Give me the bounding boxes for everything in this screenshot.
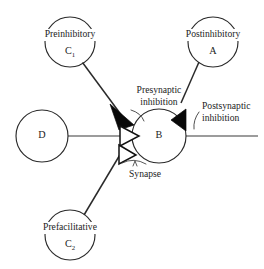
c1-subscript-char: 1 xyxy=(72,51,75,58)
node-label-c1-symbol: C1 xyxy=(65,45,75,57)
node-label-c1-title: Preinhibitory xyxy=(45,28,96,39)
c2-subscript-char: 2 xyxy=(72,244,76,251)
annotation-postsynaptic-inhibition-line2: inhibition xyxy=(202,112,240,123)
leader-synapse-arrow xyxy=(133,161,137,166)
axon-c1-to-terminal xyxy=(83,63,123,117)
annotation-presynaptic-inhibition-line2: inhibition xyxy=(140,96,178,107)
annotation-presynaptic-inhibition-line1: Presynaptic xyxy=(137,84,182,95)
diagram-canvas: Preinhibitory C1 Postinhibitory A D B Pr… xyxy=(0,0,264,269)
annotation-synapse-line1: Synapse xyxy=(129,168,161,179)
neuron-synapse-diagram: Preinhibitory C1 Postinhibitory A D B Pr… xyxy=(0,0,264,269)
axon-c2-to-terminal xyxy=(84,153,121,215)
node-circle-c1[interactable] xyxy=(45,17,95,67)
annotation-postsynaptic-inhibition-line1: Postsynaptic xyxy=(202,100,251,111)
node-label-a-title: Postinhibitory xyxy=(186,28,241,39)
leader-postsynaptic-inhibition xyxy=(194,112,199,129)
node-label-b-symbol: B xyxy=(156,129,163,140)
node-label-c2-title: Prefacilitative xyxy=(43,221,97,232)
node-label-d-symbol: D xyxy=(38,129,45,140)
axon-a-to-b-soma xyxy=(181,62,199,103)
node-circle-c2[interactable] xyxy=(45,210,95,260)
bouton-postsynaptic-inhibition xyxy=(171,109,186,131)
node-label-c2-symbol: C2 xyxy=(65,238,76,250)
node-label-a-symbol: A xyxy=(209,45,217,56)
bouton-presynaptic-inhibition xyxy=(110,104,134,130)
node-circle-a[interactable] xyxy=(188,17,238,67)
bouton-synapse-upper xyxy=(120,126,139,146)
